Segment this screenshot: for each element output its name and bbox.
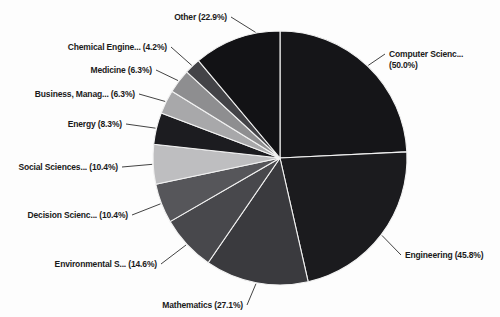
slice-label-chemical-engineering: Chemical Engine... (4.2%)	[68, 42, 168, 52]
slice-label-decision-sciences: Decision Scienc... (10.4%)	[27, 210, 128, 220]
slice-label-energy: Energy (8.3%)	[68, 119, 123, 129]
slice-label-percent: (50.0%)	[389, 60, 418, 70]
slice-label-medicine: Medicine (6.3%)	[90, 65, 152, 75]
slice-label-mathematics: Mathematics (27.1%)	[162, 300, 243, 310]
leader-line-energy	[126, 124, 156, 128]
slice-label-computer-science: Computer Scienc...(50.0%)	[389, 49, 463, 70]
pie-slice-computer-science	[280, 31, 407, 158]
leader-line-social-sciences	[122, 164, 152, 167]
leader-line-medicine	[156, 70, 178, 81]
leader-line-business-management	[139, 94, 165, 101]
leader-line-decision-sciences	[132, 204, 160, 215]
slice-label-environmental-science: Environmental S... (14.6%)	[55, 259, 158, 269]
leader-line-mathematics	[247, 284, 256, 305]
leader-line-chemical-engineering	[171, 47, 192, 65]
slice-label-name: Computer Scienc...	[389, 49, 463, 59]
leader-line-other	[231, 17, 256, 32]
slice-label-other: Other (22.9%)	[174, 12, 227, 22]
pie-chart: Computer Scienc...(50.0%)Engineering (45…	[0, 0, 500, 317]
slice-label-business-management: Business, Manag... (6.3%)	[35, 89, 135, 99]
pie-slices	[153, 31, 407, 285]
leader-line-environmental-science	[161, 245, 186, 264]
leader-line-computer-science	[368, 54, 385, 65]
pie-chart-figure: Computer Scienc...(50.0%)Engineering (45…	[0, 0, 500, 317]
leader-line-engineering	[382, 235, 401, 255]
slice-label-social-sciences: Social Sciences... (10.4%)	[18, 162, 118, 172]
slice-label-engineering: Engineering (45.8%)	[405, 250, 484, 260]
